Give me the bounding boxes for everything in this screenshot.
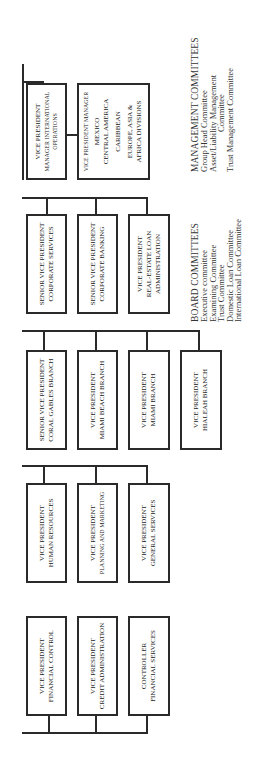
box-title: VICE PRESIDENT MANAGER <box>82 92 90 172</box>
box-subtitle: MANAGER INTERNATIONAL <box>43 92 51 172</box>
box-subtitle: HUMAN RESOURCES <box>47 499 56 568</box>
box-title: SENIOR VICE PRESIDENT <box>89 223 98 306</box>
connector <box>95 716 97 734</box>
box-title: VICE PRESIDENT <box>140 505 149 561</box>
connector <box>43 466 45 484</box>
box-subtitle: FINANCIAL CONTROL <box>47 630 56 702</box>
box-subtitle: HIALEAH BRANCH <box>201 369 210 431</box>
box-vp-planning-marketing: VICE PRESIDENT PLANNING AND MARKETING <box>77 483 118 583</box>
management-committees: MANAGEMENT COMMITTEES Group Head Committ… <box>190 32 234 172</box>
box-title: VICE PRESIDENT <box>89 638 98 694</box>
division-name: MEXICO <box>93 118 102 146</box>
box-subtitle: GENERAL SERVICES <box>149 500 158 567</box>
box-vp-general-services: VICE PRESIDENT GENERAL SERVICES <box>128 483 170 583</box>
division-name: CARIBBEAN <box>114 111 123 151</box>
box-title: VICE PRESIDENT <box>89 505 98 561</box>
box-title: SENIOR VICE PRESIDENT <box>38 223 47 306</box>
org-chart-page: VICE PRESIDENT MANAGER INTERNATIONAL OPE… <box>0 0 260 772</box>
box-vp-manager-divisions: VICE PRESIDENT MANAGER MEXICO CENTRAL AM… <box>77 83 150 180</box>
committee-item: Trust Management Committee <box>226 32 235 172</box>
box-subtitle: CORPORATE BANKING <box>98 227 107 302</box>
box-title: VICE PRESIDENT <box>38 505 47 561</box>
box-subtitle: ADMINISTRATION <box>154 234 163 294</box>
box-title: CONTROLLER <box>140 643 149 689</box>
division-name: CENTRAL AMERICA <box>102 99 111 165</box>
board-committees: BOARD COMMITTEES Executive committee Exa… <box>190 197 243 322</box>
group-corporate-bus <box>22 197 148 199</box>
connector <box>95 331 97 351</box>
connector <box>95 198 97 215</box>
box-vp-miami-branch: VICE PRESIDENT MIAMI BRANCH <box>128 350 170 450</box>
connector <box>95 466 97 484</box>
box-svp-corporate-banking: SENIOR VICE PRESIDENT CORPORATE BANKING <box>77 214 118 314</box>
box-subtitle: PLANNING AND MARKETING <box>98 492 106 574</box>
box-title: VICE PRESIDENT <box>136 236 145 292</box>
box-title: VICE PRESIDENT <box>192 372 201 428</box>
connector <box>146 198 148 215</box>
connector <box>46 198 48 215</box>
box-subtitle: OPERATIONS <box>51 113 59 150</box>
box-controller-financial-services: CONTROLLER FINANCIAL SERVICES <box>128 616 170 716</box>
box-vp-real-estate-loan: VICE PRESIDENT REAL-ESTATE LOAN ADMINIST… <box>128 214 170 314</box>
connector <box>146 331 148 351</box>
box-title: VICE PRESIDENT <box>34 104 43 160</box>
box-title: VICE PRESIDENT <box>140 372 149 428</box>
box-subtitle: CREDIT ADMINISTRATION <box>98 623 107 709</box>
division-name: EUROPE, ASIA & <box>126 105 135 158</box>
box-subtitle: FINANCIAL SERVICES <box>149 630 158 702</box>
group-administration-bus <box>22 465 148 467</box>
connector <box>198 331 200 351</box>
box-subtitle: MIAMI BEACH BRANCH <box>98 361 107 440</box>
box-vp-human-resources: VICE PRESIDENT HUMAN RESOURCES <box>26 483 67 583</box>
box-subtitle: CORAL GABLES BRANCH <box>47 358 56 441</box>
box-subtitle: MIAMI BRANCH <box>149 373 158 426</box>
box-title: SENIOR VICE PRESIDENT <box>38 359 47 442</box>
connector <box>146 716 148 734</box>
group-finance-bus <box>22 732 148 734</box>
division-name: AFRICA DIVISIONS <box>135 100 144 162</box>
box-vp-credit-administration: VICE PRESIDENT CREDIT ADMINISTRATION <box>77 616 118 716</box>
box-svp-coral-gables-branch: SENIOR VICE PRESIDENT CORAL GABLES BRANC… <box>26 350 67 450</box>
box-svp-corporate-services: SENIOR VICE PRESIDENT CORPORATE SERVICES <box>26 214 67 314</box>
box-vp-financial-control: VICE PRESIDENT FINANCIAL CONTROL <box>26 616 67 716</box>
group-branches-bus <box>22 330 200 332</box>
box-subtitle: REAL-ESTATE LOAN <box>145 231 154 298</box>
box-title: VICE PRESIDENT <box>89 372 98 428</box>
box-subtitle: CORPORATE SERVICES <box>47 226 56 301</box>
committee-item: International Loan Committee <box>234 197 243 322</box>
box-vp-miami-beach-branch: VICE PRESIDENT MIAMI BEACH BRANCH <box>77 350 118 450</box>
connector <box>48 716 50 734</box>
box-vp-hialeah-branch: VICE PRESIDENT HIALEAH BRANCH <box>180 350 222 450</box>
connector <box>43 331 45 351</box>
box-title: VICE PRESIDENT <box>38 638 47 694</box>
box-vp-international-operations: VICE PRESIDENT MANAGER INTERNATIONAL OPE… <box>26 83 67 180</box>
connector <box>146 466 148 484</box>
